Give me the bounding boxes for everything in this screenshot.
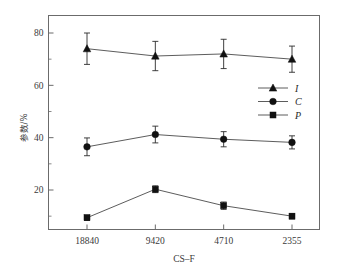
legend-label: P (294, 110, 301, 121)
circle-marker (84, 144, 91, 151)
y-tick-label: 40 (34, 133, 44, 143)
y-tick-label: 20 (34, 185, 44, 195)
square-marker (152, 186, 158, 192)
circle-marker (152, 131, 159, 138)
y-tick-label: 80 (34, 28, 44, 38)
y-axis-title: 参数/% (19, 114, 29, 143)
circle-marker (270, 98, 277, 105)
square-marker (289, 213, 295, 219)
y-tick-label: 60 (34, 81, 44, 91)
square-marker (221, 203, 227, 209)
x-tick-label: 9420 (146, 236, 165, 246)
square-marker (84, 215, 90, 221)
chart-legend: ICP (258, 83, 302, 121)
square-marker (270, 112, 276, 118)
x-axis-title: CS–F (173, 254, 195, 264)
legend-label: C (295, 96, 302, 107)
chart-figure: 20406080 18840942047102355 ICP CS–F 参数/% (0, 0, 349, 276)
x-tick-label: 2355 (283, 236, 302, 246)
circle-marker (289, 139, 296, 146)
x-tick-label: 4710 (214, 236, 233, 246)
x-tick-label: 18840 (75, 236, 99, 246)
line-chart-canvas: 20406080 18840942047102355 ICP CS–F 参数/% (0, 0, 349, 276)
legend-label: I (294, 83, 299, 94)
circle-marker (220, 136, 227, 143)
